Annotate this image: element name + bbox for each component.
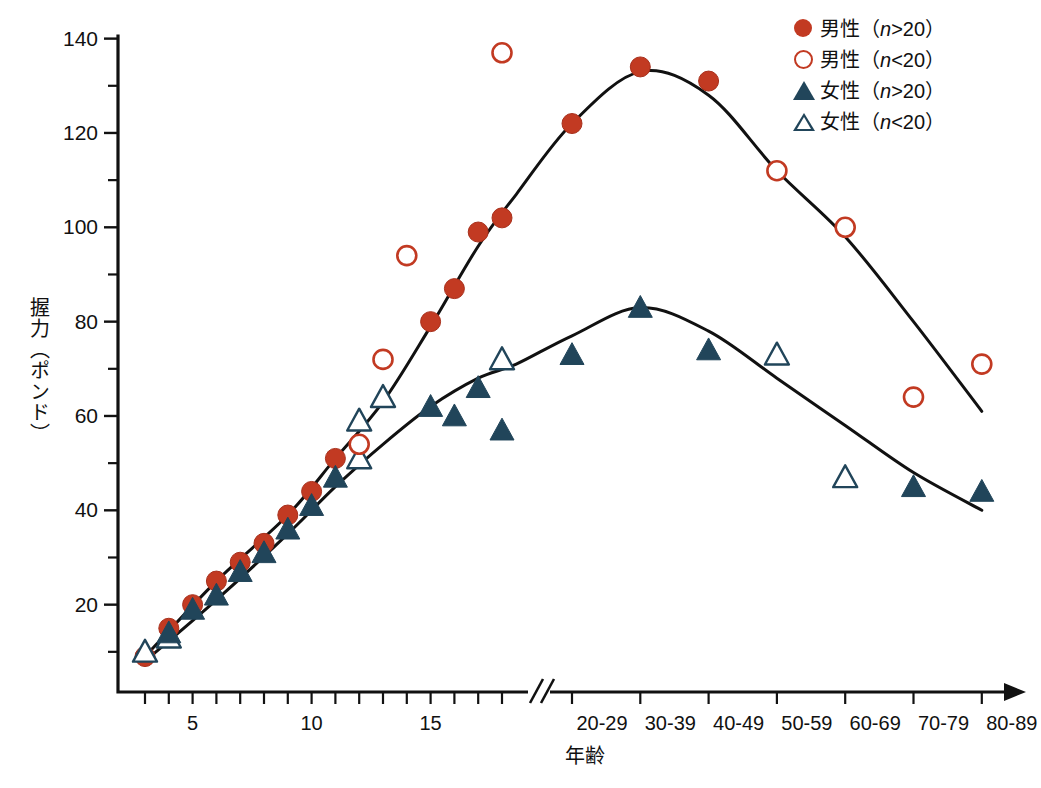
legend-item-label: 男性（n>20） [820, 13, 945, 42]
x-tick-label-year: 5 [187, 712, 198, 734]
data-point-female-n20 [560, 343, 584, 365]
x-tick-label-decade: 50-59 [781, 712, 832, 734]
x-tick-label-decade: 70-79 [918, 712, 969, 734]
data-point-female-n20 [419, 395, 443, 417]
grip-strength-chart: 204060801001201405101520-2930-3940-4950-… [0, 0, 1041, 788]
legend-item-label: 女性（n<20） [820, 106, 945, 135]
y-tick-label: 120 [63, 121, 98, 144]
y-tick-label: 20 [75, 593, 98, 616]
data-point-male-n20 [630, 57, 650, 77]
x-tick-label-decade: 80-89 [986, 712, 1037, 734]
data-point-female-n20 [970, 479, 994, 501]
data-point-male-n20 [493, 43, 512, 62]
y-axis-title: 握力（ポンド） [24, 297, 53, 444]
y-tick-label: 100 [63, 215, 98, 238]
data-point-female-n20 [697, 338, 721, 360]
x-tick-label-year: 10 [300, 712, 322, 734]
data-point-female-n20 [490, 418, 514, 440]
legend-filled-triangle-icon [790, 78, 820, 102]
legend-item-label: 女性（n>20） [820, 75, 945, 104]
data-point-male-n20 [699, 71, 719, 91]
data-point-male-n20 [444, 279, 464, 299]
x-tick-label-decade: 20-29 [576, 712, 627, 734]
data-point-male-n20 [421, 312, 441, 332]
legend-open-triangle-icon [790, 109, 820, 133]
x-tick-label-decade: 60-69 [850, 712, 901, 734]
data-point-male-n20 [767, 161, 786, 180]
data-point-male-n20 [374, 350, 393, 369]
legend-filled-circle-icon-glyph [794, 19, 812, 37]
data-point-female-n20 [765, 343, 789, 365]
data-point-male-n20 [562, 114, 582, 134]
legend-item[interactable]: 女性（n>20） [790, 76, 945, 103]
legend-open-triangle-icon-glyph [793, 113, 815, 131]
data-point-male-n20 [397, 246, 416, 265]
legend-filled-triangle-icon-glyph [793, 81, 815, 100]
legend: 男性（n>20）男性（n<20）女性（n>20）女性（n<20） [790, 14, 945, 134]
data-point-male-n20 [350, 435, 369, 454]
legend-item[interactable]: 男性（n>20） [790, 14, 945, 41]
x-tick-label-decade: 30-39 [645, 712, 696, 734]
legend-item[interactable]: 男性（n<20） [790, 45, 945, 72]
data-point-male-n20 [468, 222, 488, 242]
data-point-female-n20 [466, 376, 490, 398]
data-point-male-n20 [904, 388, 923, 407]
data-point-female-n20 [490, 347, 514, 369]
x-tick-label-decade: 40-49 [713, 712, 764, 734]
data-point-female-n20 [833, 465, 857, 487]
x-axis-title: 年齢 [565, 740, 605, 769]
legend-filled-circle-icon [790, 16, 820, 40]
x-axis-arrow [1004, 683, 1026, 701]
x-tick-label-year: 15 [419, 712, 441, 734]
data-point-male-n20 [492, 208, 512, 228]
legend-open-circle-icon-glyph [794, 50, 813, 69]
data-point-female-n20 [442, 404, 466, 426]
y-tick-label: 80 [75, 310, 98, 333]
legend-item[interactable]: 女性（n<20） [790, 107, 945, 134]
y-tick-label: 40 [75, 498, 98, 521]
legend-item-label: 男性（n<20） [820, 44, 945, 73]
legend-open-circle-icon [790, 47, 820, 71]
data-point-male-n20 [972, 355, 991, 374]
data-point-male-n20 [836, 218, 855, 237]
y-tick-label: 140 [63, 27, 98, 50]
y-tick-label: 60 [75, 404, 98, 427]
